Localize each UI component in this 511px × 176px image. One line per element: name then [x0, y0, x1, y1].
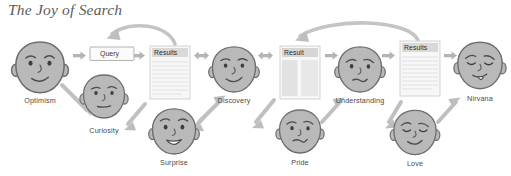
caption-curiosity: Curiosity [74, 126, 134, 135]
arrow-results1-to-discovery [194, 51, 209, 59]
document-label-results-3: Results [404, 44, 427, 51]
arrow-optimism-to-query [73, 51, 86, 59]
face-love [390, 110, 440, 154]
page-title: The Joy of Search [8, 1, 122, 19]
feedback-curve-results1-to-query [107, 26, 176, 44]
document-label-result-2: Result [284, 49, 304, 56]
face-optimism [12, 42, 69, 93]
arrow-discovery-to-result2 [258, 51, 273, 59]
arrow-results3-to-nirvana [444, 51, 457, 59]
arrow-result2-to-understanding [325, 51, 338, 59]
caption-understanding: Understanding [325, 96, 395, 105]
caption-love: Love [385, 159, 445, 168]
feedback-curve-results3-to-result2 [295, 23, 418, 42]
face-surprise [149, 109, 200, 154]
caption-nirvana: Nirvana [450, 94, 510, 103]
caption-optimism: Optimism [10, 96, 70, 105]
diagram-canvas [0, 0, 511, 176]
document-label-query: Query [100, 50, 119, 57]
face-pride [276, 110, 324, 153]
caption-discovery: Discovery [204, 96, 264, 105]
arrow-understanding-to-results3 [382, 51, 395, 59]
caption-surprise: Surprise [144, 158, 204, 167]
caption-pride: Pride [270, 158, 330, 167]
face-discovery [209, 47, 260, 92]
joy-of-search-diagram: The Joy of Search Query Results Result R… [0, 0, 511, 176]
face-understanding [335, 47, 386, 92]
document-label-results-1: Results [154, 49, 177, 56]
face-nirvana [454, 42, 506, 88]
